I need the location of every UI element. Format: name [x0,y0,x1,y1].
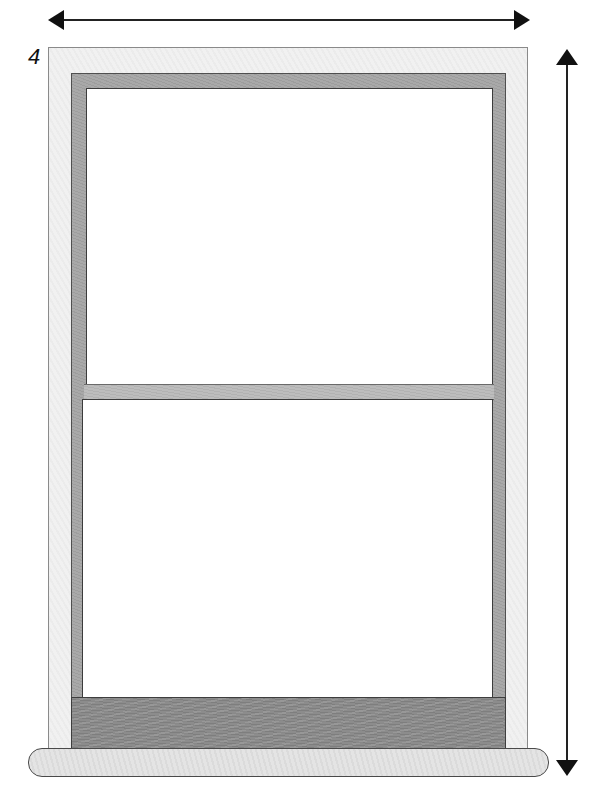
arrow-right-icon [514,10,530,30]
arrow-up-icon [556,49,578,65]
lower-glass-pane [82,399,493,698]
upper-glass-pane [86,88,493,385]
step-number-label: 4 [28,46,40,68]
meeting-rail [84,384,494,400]
width-arrow-line [58,19,518,21]
bottom-rail [71,697,506,749]
arrow-down-icon [556,760,578,776]
arrow-left-icon [48,10,64,30]
height-arrow-line [566,60,568,760]
window-sill [28,748,549,777]
